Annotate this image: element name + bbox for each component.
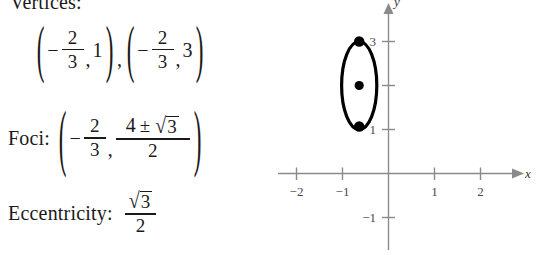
foci-y-denominator: 2 xyxy=(145,141,161,160)
x-axis-label: x xyxy=(524,166,531,181)
worked-solution-figure: Vertices: ( − 2 3 , 1 ) , ( − 2 3 , 3 ) xyxy=(0,0,543,255)
vertex-lower-point xyxy=(354,121,364,131)
eccentricity-denominator: 2 xyxy=(133,216,149,235)
close-paren-1: ) xyxy=(105,18,113,81)
foci-y-fraction: 4±√3 2 xyxy=(116,115,190,161)
vertex1-x-sign: − xyxy=(47,40,58,60)
close-paren-2: ) xyxy=(195,18,203,81)
solution-text-panel: Vertices: ( − 2 3 , 1 ) , ( − 2 3 , 3 ) xyxy=(0,0,272,255)
foci-x-sign: − xyxy=(69,128,80,148)
y-tick-label--1: −1 xyxy=(362,210,376,225)
vertex2-x-numerator: 2 xyxy=(155,28,171,47)
vertex1-x-fraction: 2 3 xyxy=(62,28,84,71)
vertex2-x-denominator: 3 xyxy=(155,52,171,71)
vertex2-x-sign: − xyxy=(137,40,148,60)
y-axis-label: y xyxy=(392,0,400,9)
x-axis xyxy=(278,169,524,179)
vertex2-x-fraction: 2 3 xyxy=(152,28,174,71)
x-tick-label--2: −2 xyxy=(290,184,304,199)
foci-comma: , xyxy=(108,139,113,161)
open-paren-foci: ( xyxy=(59,100,67,175)
plus-minus-icon: ± xyxy=(136,115,154,136)
vertex1-comma: , xyxy=(86,49,91,71)
close-paren-foci: ) xyxy=(194,100,202,175)
foci-y-num-term: 4 xyxy=(126,115,136,135)
radical-sign-icon: √ xyxy=(155,114,166,136)
vertex2-comma: , xyxy=(176,49,181,71)
radicand: 3 xyxy=(140,191,153,212)
vertex1-x-numerator: 2 xyxy=(65,28,81,47)
radicand: 3 xyxy=(166,116,179,137)
vertex2-y: 3 xyxy=(183,40,193,60)
eccentricity-fraction: √3 2 xyxy=(125,190,156,236)
foci-x-denominator: 3 xyxy=(87,140,103,159)
ellipse-center-point xyxy=(355,81,364,90)
foci-x-fraction: 2 3 xyxy=(84,116,106,159)
vertex1-x-denominator: 3 xyxy=(65,52,81,71)
vertices-heading: Vertices: xyxy=(10,0,82,14)
vertices-points-row: ( − 2 3 , 1 ) , ( − 2 3 , 3 ) xyxy=(34,28,206,71)
x-tick-label-2: 2 xyxy=(477,184,484,199)
y-axis xyxy=(384,3,394,250)
graph-svg: −2 −1 1 2 3 1 −1 x y xyxy=(272,0,543,255)
foci-y-numerator: 4±√3 xyxy=(123,115,183,137)
radical-sign-icon: √ xyxy=(129,189,140,211)
x-tick-label--1: −1 xyxy=(336,184,350,199)
y-tick-label-1: 1 xyxy=(370,122,377,137)
vertex1-y: 1 xyxy=(93,40,103,60)
eccentricity-row: Eccentricity: √3 2 xyxy=(8,190,157,236)
open-paren-2: ( xyxy=(127,18,135,81)
foci-label: Foci: xyxy=(8,128,50,148)
coordinate-graph-panel: −2 −1 1 2 3 1 −1 x y xyxy=(272,0,543,255)
foci-x-numerator: 2 xyxy=(87,116,103,135)
sqrt-3-radical: √3 xyxy=(129,190,152,212)
x-tick-label-1: 1 xyxy=(431,184,438,199)
foci-row: Foci: ( − 2 3 , 4±√3 2 ) xyxy=(8,115,204,161)
sqrt-3-radical: √3 xyxy=(155,115,178,137)
points-separator: , xyxy=(117,49,122,71)
eccentricity-numerator: √3 xyxy=(125,190,156,212)
vertex-upper-point xyxy=(354,36,364,46)
eccentricity-label: Eccentricity: xyxy=(8,203,113,223)
y-tick-label-3: 3 xyxy=(370,34,377,49)
open-paren-1: ( xyxy=(37,18,45,81)
